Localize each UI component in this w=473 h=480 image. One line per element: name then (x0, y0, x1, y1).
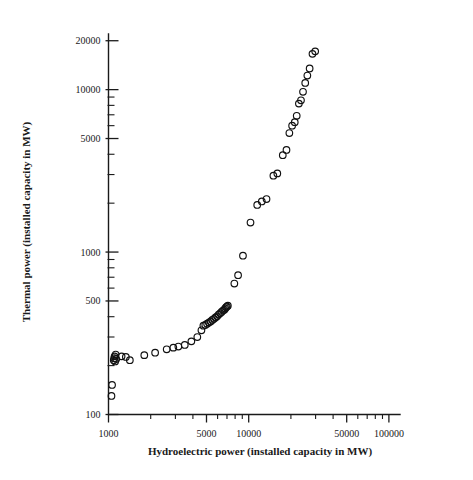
x-tick-label: 10000 (236, 428, 261, 439)
data-point (109, 382, 116, 389)
data-point (286, 130, 293, 137)
y-tick-label: 10000 (76, 84, 101, 95)
data-point (181, 342, 188, 349)
data-point (302, 80, 309, 87)
x-tick-label: 50000 (334, 428, 359, 439)
chart-figure: 1000500010000500001000001005001000500010… (0, 0, 473, 480)
data-point (304, 72, 311, 79)
data-point (240, 252, 247, 259)
ticks-layer (106, 41, 389, 423)
data-point (163, 346, 170, 353)
data-point (231, 280, 238, 287)
y-axis-title: Thermal power (installed capacity in MW) (20, 121, 33, 322)
x-axis-title: Hydroelectric power (installed capacity … (148, 445, 372, 458)
x-tick-label: 1000 (99, 428, 119, 439)
data-point (254, 202, 261, 209)
data-points-layer (108, 48, 318, 399)
data-point (247, 219, 254, 226)
data-point (188, 338, 195, 345)
tick-labels-layer: 1000500010000500001000001005001000500010… (76, 35, 404, 438)
data-point (293, 113, 300, 120)
y-tick-label: 20000 (76, 35, 101, 46)
data-point (152, 349, 159, 356)
y-tick-label: 1000 (81, 247, 101, 258)
data-point (235, 272, 242, 279)
scatter-plot: 1000500010000500001000001005001000500010… (0, 0, 473, 480)
data-point (283, 147, 290, 154)
x-tick-label: 100000 (374, 428, 404, 439)
axis-spines (109, 34, 401, 415)
data-point (306, 65, 313, 72)
y-tick-label: 5000 (81, 133, 101, 144)
axes-layer (109, 34, 401, 415)
x-tick-label: 5000 (196, 428, 216, 439)
y-tick-label: 500 (86, 295, 101, 306)
data-point (194, 334, 201, 341)
data-point (300, 88, 307, 95)
data-point (141, 352, 148, 359)
y-tick-label: 100 (86, 409, 101, 420)
